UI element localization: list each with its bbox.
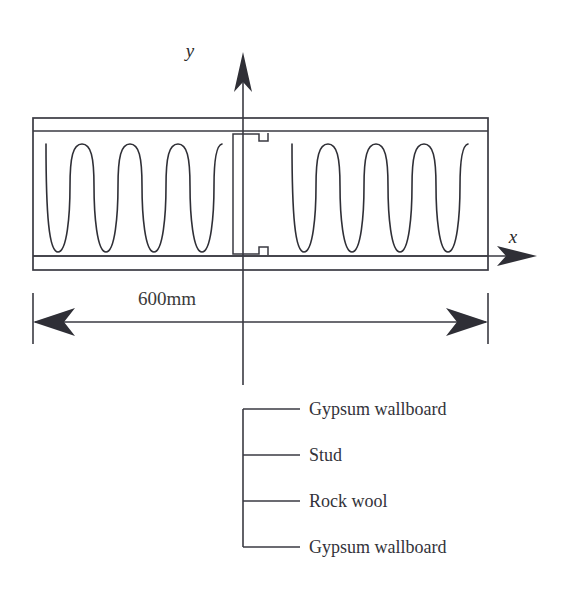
rock-wool-right — [292, 144, 468, 252]
dimension-label: 600mm — [138, 288, 196, 309]
callout-label-4: Gypsum wallboard — [309, 537, 446, 557]
rock-wool-left — [46, 144, 222, 252]
y-axis-label: y — [184, 40, 195, 61]
callout-group: Gypsum wallboard Stud Rock wool Gypsum w… — [243, 399, 446, 557]
steel-c-stud — [233, 133, 268, 255]
rock-wool-right-wave — [292, 144, 468, 252]
stud-c-channel-profile — [233, 133, 268, 255]
coordinate-axes: y x — [33, 40, 537, 385]
x-axis-label: x — [508, 226, 518, 247]
callout-label-3: Rock wool — [309, 491, 388, 511]
callout-label-2: Stud — [309, 445, 342, 465]
figure-canvas: y x — [0, 0, 564, 596]
rock-wool-left-wave — [46, 144, 222, 252]
dimension-600mm: 600mm — [33, 288, 488, 344]
callout-label-1: Gypsum wallboard — [309, 399, 446, 419]
wall-section-diagram: y x — [0, 0, 564, 596]
